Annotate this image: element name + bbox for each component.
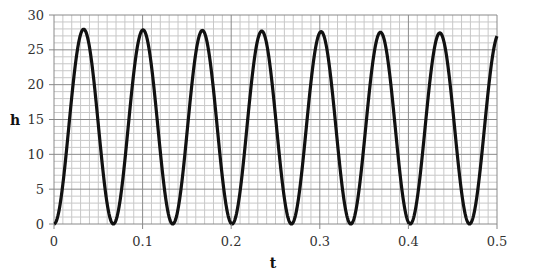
y-tick-label: 10	[27, 147, 44, 162]
x-tick-label: 0.2	[221, 234, 242, 249]
x-tick-label: 0	[50, 234, 58, 249]
y-tick-label: 0	[36, 217, 44, 232]
x-axis-label: t	[270, 255, 277, 271]
x-axis-ticks: 00.10.20.30.40.5	[50, 224, 507, 249]
y-tick-label: 5	[36, 182, 44, 197]
x-tick-label: 0.4	[398, 234, 419, 249]
y-axis-label: h	[10, 112, 20, 128]
x-tick-label: 0.3	[309, 234, 330, 249]
x-tick-label: 0.5	[487, 234, 508, 249]
x-tick-label: 0.1	[132, 234, 153, 249]
y-axis-ticks: 051015202530	[27, 8, 54, 232]
y-tick-label: 30	[27, 8, 44, 23]
line-chart: 051015202530 00.10.20.30.40.5 h t	[0, 0, 540, 277]
y-tick-label: 25	[27, 42, 44, 57]
y-tick-label: 15	[27, 112, 44, 127]
y-tick-label: 20	[27, 77, 44, 92]
